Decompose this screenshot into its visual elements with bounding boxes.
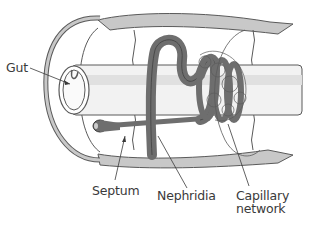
diagram-canvas: Gut Septum Nephridia Capillary network: [0, 0, 309, 225]
label-nephridia: Nephridia: [157, 189, 216, 202]
body-wall-bottom: [98, 150, 293, 168]
label-gut: Gut: [6, 61, 28, 74]
label-septum: Septum: [92, 184, 139, 197]
body-wall-top: [98, 14, 293, 35]
label-network: network: [236, 202, 285, 215]
